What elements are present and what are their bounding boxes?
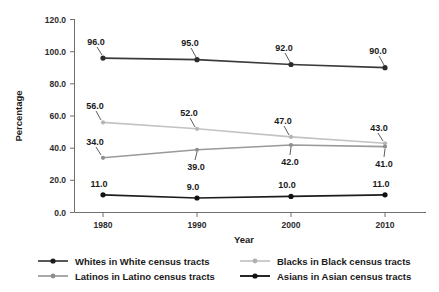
point-label-blacks-2000: 47.0: [274, 116, 292, 126]
series-asians-point-2010: [382, 192, 387, 197]
legend-marker-whites: [50, 258, 55, 263]
series-whites-point-2000: [288, 62, 293, 67]
series-asians-point-2000: [288, 194, 293, 199]
point-label-latinos-1980: 34.0: [86, 137, 104, 147]
legend-marker-asians: [252, 273, 257, 278]
series-whites-point-2010: [382, 65, 387, 70]
point-label-latinos-2010: 41.0: [375, 159, 393, 169]
legend-label-blacks: Blacks in Black census tracts: [277, 256, 411, 267]
chart-canvas: 120.0 100.0 80.0 60.0 40.0 20.0 0.0 Perc…: [0, 0, 439, 292]
legend-label-asians: Asians in Asian census tracts: [277, 271, 411, 282]
series-asians-point-1980: [100, 192, 105, 197]
series-latinos-point-2010: [383, 145, 387, 149]
point-label-asians-1980: 11.0: [90, 179, 107, 189]
legend-marker-blacks: [253, 259, 258, 264]
point-label-asians-1990: 9.0: [187, 182, 200, 192]
y-axis-title: Percentage: [13, 90, 24, 141]
point-label-whites-2010: 90.0: [369, 46, 387, 56]
point-label-whites-2000: 92.0: [275, 43, 293, 53]
y-tick-label-0: 0.0: [54, 208, 66, 218]
point-label-blacks-1990: 52.0: [180, 108, 198, 118]
series-blacks-point-2000: [289, 135, 293, 139]
legend-item-asians[interactable]: Asians in Asian census tracts: [240, 271, 411, 282]
y-tick-label-120: 120.0: [45, 15, 67, 25]
y-tick-label-60: 60.0: [49, 111, 66, 121]
x-tick-label-1980: 1980: [94, 220, 113, 230]
legend-label-latinos: Latinos in Latino census tracts: [75, 271, 215, 282]
line-chart: 120.0 100.0 80.0 60.0 40.0 20.0 0.0 Perc…: [0, 0, 439, 292]
x-tick-label-1990: 1990: [188, 220, 207, 230]
series-asians-point-1990: [194, 195, 199, 200]
chart-legend: Whites in White census tracts Blacks in …: [38, 256, 411, 282]
series-whites-point-1990: [194, 57, 199, 62]
x-tick-label-2000: 2000: [282, 220, 301, 230]
y-axis-ticks: [70, 20, 75, 213]
x-axis-ticks: [103, 213, 385, 218]
series-whites-line: [103, 58, 385, 68]
y-tick-label-20: 20.0: [49, 175, 66, 185]
point-label-whites-1990: 95.0: [181, 38, 199, 48]
point-label-latinos-1990: 39.0: [187, 162, 205, 172]
x-axis-title: Year: [234, 234, 254, 245]
series-whites-point-1980: [100, 56, 105, 61]
series-asians-line: [103, 195, 385, 198]
legend-marker-latinos: [51, 274, 56, 279]
y-tick-label-80: 80.0: [49, 79, 66, 89]
series-latinos-point-2000: [289, 143, 293, 147]
x-tick-label-2010: 2010: [376, 220, 395, 230]
point-label-blacks-1980: 56.0: [86, 101, 104, 111]
point-label-asians-2010: 11.0: [372, 179, 389, 189]
y-tick-label-40: 40.0: [49, 143, 66, 153]
y-tick-label-100: 100.0: [45, 47, 67, 57]
series-whites: 96.0 95.0 92.0 90.0: [87, 37, 387, 70]
legend-label-whites: Whites in White census tracts: [75, 256, 210, 267]
point-label-asians-2000: 10.0: [278, 180, 296, 190]
series-asians: 11.0 9.0 10.0 11.0: [90, 179, 389, 201]
point-label-whites-1980: 96.0: [87, 37, 105, 47]
series-blacks-point-1990: [195, 127, 199, 131]
series-latinos-point-1980: [101, 156, 105, 160]
legend-item-blacks[interactable]: Blacks in Black census tracts: [240, 256, 411, 267]
series-blacks: 56.0 52.0 47.0 43.0: [86, 101, 388, 145]
series-latinos-line: [103, 145, 385, 158]
series-latinos: 34.0 39.0 42.0 41.0: [86, 137, 393, 172]
legend-item-whites[interactable]: Whites in White census tracts: [38, 256, 210, 267]
point-label-blacks-2010: 43.0: [370, 123, 388, 133]
series-latinos-point-1990: [195, 148, 199, 152]
legend-item-latinos[interactable]: Latinos in Latino census tracts: [38, 271, 215, 282]
series-blacks-line: [103, 122, 385, 143]
series-blacks-point-1980: [101, 120, 105, 124]
point-label-latinos-2000: 42.0: [281, 157, 299, 167]
